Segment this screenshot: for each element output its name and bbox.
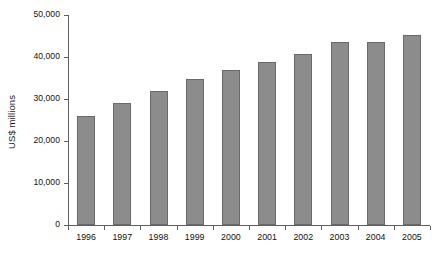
bar-2000 <box>222 70 240 225</box>
x-axis-tick-mark <box>285 226 286 230</box>
x-axis-tick-label: 2004 <box>358 232 394 242</box>
bar-2001 <box>258 62 276 225</box>
x-axis-tick-mark <box>140 226 141 230</box>
y-axis-tick-label: 10,000 <box>14 178 60 187</box>
y-axis-tick-mark <box>64 57 69 58</box>
x-axis-tick-label: 2000 <box>213 232 249 242</box>
bar-1999 <box>186 79 204 225</box>
x-axis-tick-labels: 1996199719981999200020012002200320042005 <box>68 232 430 246</box>
x-axis-tick-label: 2001 <box>249 232 285 242</box>
bar-2004 <box>367 42 385 225</box>
bar-1996 <box>77 116 95 225</box>
x-axis-tick-mark <box>358 226 359 230</box>
y-axis-tick-label: 20,000 <box>14 136 60 145</box>
x-axis-tick-label: 1999 <box>177 232 213 242</box>
x-axis-tick-label: 1998 <box>140 232 176 242</box>
x-axis-tick-label: 1996 <box>68 232 104 242</box>
bar-1997 <box>113 103 131 225</box>
x-axis-tick-mark <box>394 226 395 230</box>
y-axis-tick-mark <box>64 141 69 142</box>
x-axis-tick-mark <box>430 226 431 230</box>
y-axis-tick-mark <box>64 15 69 16</box>
y-axis-tick-mark <box>64 183 69 184</box>
y-axis-tick-labels: 010,00020,00030,00040,00050,000 <box>14 0 60 265</box>
bar-1998 <box>150 91 168 225</box>
x-axis-tick-label: 2005 <box>394 232 430 242</box>
plot-area <box>68 15 430 225</box>
y-axis-tick-label: 0 <box>14 220 60 229</box>
y-axis-tick-label: 40,000 <box>14 52 60 61</box>
x-axis-tick-mark <box>104 226 105 230</box>
y-axis-line <box>68 15 69 226</box>
bar-chart: US$ millions 010,00020,00030,00040,00050… <box>0 0 446 265</box>
y-axis-tick-label: 30,000 <box>14 94 60 103</box>
x-axis-tick-mark <box>249 226 250 230</box>
bar-2003 <box>331 42 349 225</box>
x-axis-tick-mark <box>213 226 214 230</box>
x-axis-tick-label: 1997 <box>104 232 140 242</box>
x-axis-tick-mark <box>177 226 178 230</box>
x-axis-tick-label: 2002 <box>285 232 321 242</box>
y-axis-tick-mark <box>64 99 69 100</box>
x-axis-tick-mark <box>321 226 322 230</box>
y-axis-tick-label: 50,000 <box>14 10 60 19</box>
bar-2005 <box>403 35 421 225</box>
bar-2002 <box>294 54 312 225</box>
x-axis-tick-label: 2003 <box>321 232 357 242</box>
x-axis-tick-mark <box>68 226 69 230</box>
